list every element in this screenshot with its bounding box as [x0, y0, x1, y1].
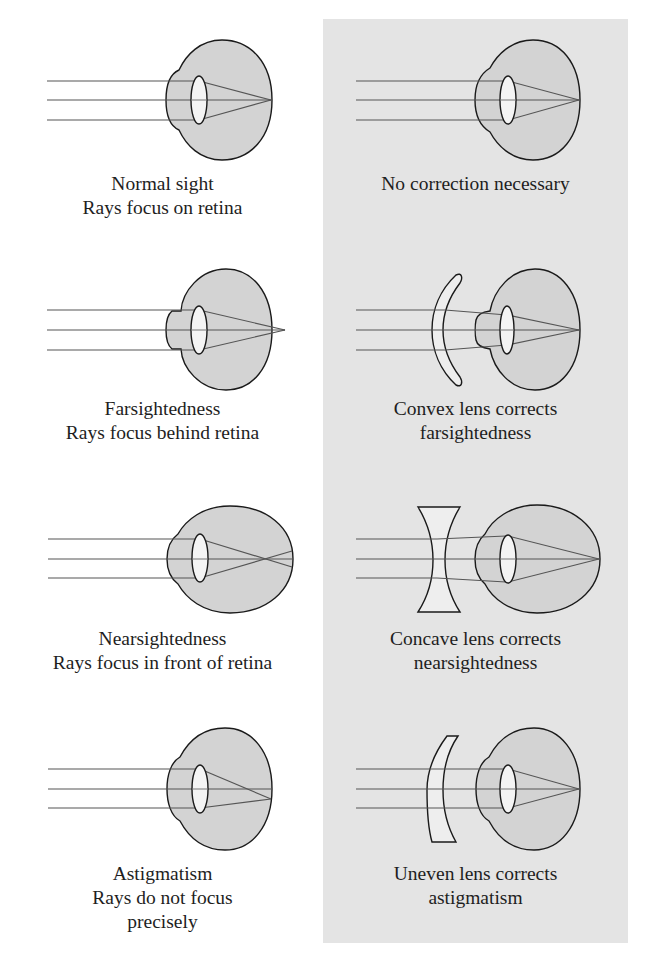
caption-title: Normal sight: [20, 172, 305, 196]
caption-detail: Rays do not focus: [20, 886, 305, 910]
caption-title: No correction necessary: [323, 172, 628, 196]
caption-uneven-lens: Uneven lens corrects astigmatism: [323, 862, 628, 910]
nearsighted-corrected-diagram: [356, 505, 600, 613]
caption-no-correction: No correction necessary: [323, 172, 628, 196]
astigmatism-eye-diagram: [48, 728, 272, 850]
normal-eye-diagram: [47, 40, 272, 160]
caption-detail-2: precisely: [20, 910, 305, 934]
lens-icon: [192, 534, 208, 582]
eye-vision-diagram: Normal sight Rays focus on retina No cor…: [0, 0, 663, 957]
caption-concave-lens: Concave lens corrects nearsightedness: [323, 627, 628, 675]
caption-title: Nearsightedness: [20, 627, 305, 651]
caption-title: Concave lens corrects: [323, 627, 628, 651]
caption-detail: Rays focus on retina: [20, 196, 305, 220]
caption-title: Astigmatism: [20, 862, 305, 886]
caption-title: Uneven lens corrects: [323, 862, 628, 886]
farsighted-corrected-diagram: [356, 269, 580, 390]
caption-detail: Rays focus in front of retina: [20, 651, 305, 675]
caption-detail: astigmatism: [323, 886, 628, 910]
caption-detail: Rays focus behind retina: [20, 421, 305, 445]
caption-normal-sight: Normal sight Rays focus on retina: [20, 172, 305, 220]
diagram-drawing: [0, 0, 663, 957]
caption-detail: farsightedness: [323, 421, 628, 445]
caption-astigmatism: Astigmatism Rays do not focus precisely: [20, 862, 305, 934]
caption-title: Convex lens corrects: [323, 397, 628, 421]
farsighted-eye-diagram: [47, 269, 285, 390]
caption-detail: nearsightedness: [323, 651, 628, 675]
normal-eye-no-correction-diagram: [356, 40, 580, 160]
astigmatism-corrected-diagram: [356, 728, 580, 850]
caption-nearsightedness: Nearsightedness Rays focus in front of r…: [20, 627, 305, 675]
caption-convex-lens: Convex lens corrects farsightedness: [323, 397, 628, 445]
nearsighted-eye-diagram: [48, 506, 293, 613]
caption-title: Farsightedness: [20, 397, 305, 421]
caption-farsightedness: Farsightedness Rays focus behind retina: [20, 397, 305, 445]
